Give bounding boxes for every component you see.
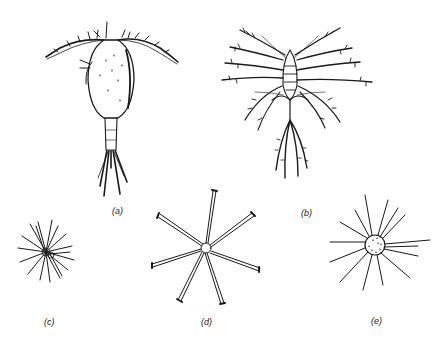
label-e: (e) [371,316,382,326]
label-d: (d) [201,317,212,327]
label-a: (a) [112,206,123,216]
panel-e-radiating-sphere-drawing [0,0,447,339]
plankton-figure-plate: (a) (b) (c) (d) (e) [0,0,447,339]
label-c: (c) [44,317,55,327]
label-b: (b) [301,208,312,218]
